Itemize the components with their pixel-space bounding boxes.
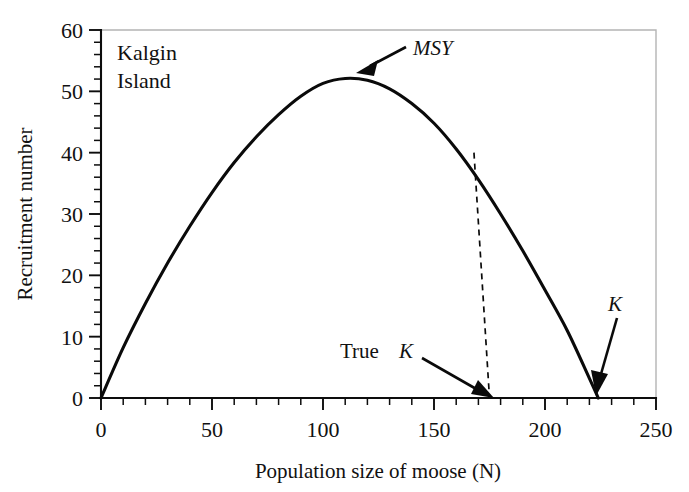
x-axis-tick-labels: 0 50 100 150 200 250 bbox=[96, 417, 673, 442]
chart-canvas: 0 10 20 30 40 50 60 0 50 100 150 200 250… bbox=[0, 0, 689, 492]
panel-label-line1: Kalgin bbox=[117, 40, 177, 65]
y-tick-label: 0 bbox=[72, 386, 83, 411]
true-k-annotation: True K bbox=[340, 339, 494, 398]
msy-annotation: MSY bbox=[356, 36, 455, 76]
y-tick-label: 20 bbox=[61, 263, 83, 288]
x-tick-label: 100 bbox=[307, 417, 340, 442]
y-axis-tick-labels: 0 10 20 30 40 50 60 bbox=[61, 18, 83, 411]
msy-arrow-head bbox=[356, 60, 378, 76]
x-tick-label: 250 bbox=[640, 417, 673, 442]
msy-label: MSY bbox=[412, 36, 455, 60]
y-tick-label: 50 bbox=[61, 79, 83, 104]
x-axis-title: Population size of moose (N) bbox=[255, 459, 501, 483]
true-k-arrow-head bbox=[471, 380, 494, 398]
x-tick-label: 150 bbox=[418, 417, 451, 442]
x-tick-label: 0 bbox=[96, 417, 107, 442]
true-k-arrow-line bbox=[422, 358, 478, 390]
true-k-label-italic: K bbox=[398, 339, 414, 363]
x-axis-major-ticks bbox=[101, 398, 656, 410]
y-axis-major-ticks bbox=[89, 30, 101, 398]
y-tick-label: 40 bbox=[61, 141, 83, 166]
k-arrow-head bbox=[591, 370, 608, 396]
y-tick-label: 60 bbox=[61, 18, 83, 43]
y-axis-title: Recruitment number bbox=[13, 127, 37, 300]
k-arrow-line bbox=[601, 318, 617, 374]
true-k-label-plain: True bbox=[340, 339, 379, 363]
y-tick-label: 30 bbox=[61, 202, 83, 227]
x-tick-label: 200 bbox=[529, 417, 562, 442]
panel-label-line2: Island bbox=[117, 68, 171, 93]
recruitment-curve-figure: 0 10 20 30 40 50 60 0 50 100 150 200 250… bbox=[0, 0, 689, 492]
y-tick-label: 10 bbox=[61, 325, 83, 350]
k-label: K bbox=[607, 292, 623, 316]
true-k-dashed-line bbox=[474, 153, 490, 398]
x-tick-label: 50 bbox=[201, 417, 223, 442]
carrying-capacity-annotation: K bbox=[591, 292, 623, 396]
